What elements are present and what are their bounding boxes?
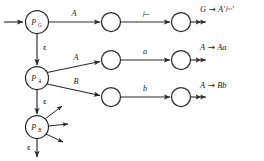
rule-bottom-rhs: Bb <box>217 81 226 90</box>
state-sub-pa: A <box>37 78 42 84</box>
state-transition-diagram: S1 --|- --> S2 ==> rule ===== --> P_A ==… <box>0 0 264 161</box>
rule-bottom-arrow: → <box>208 80 215 90</box>
rule-middle-arrow: → <box>208 42 215 52</box>
production-rule-middle: A→Aa <box>199 42 226 52</box>
edge-label-s5-to-s6: b <box>143 84 147 93</box>
state-node-s1[interactable] <box>102 13 121 32</box>
edge-label-pa-to-pb: ε <box>43 98 47 106</box>
rule-middle-lhs: A <box>199 43 206 52</box>
state-label-pb: P <box>30 123 36 132</box>
state-node-s4[interactable] <box>172 51 191 70</box>
edge-label-pb-exit: ε <box>27 144 31 152</box>
production-rule-top: G→A′⊢′ <box>200 4 234 14</box>
edge-pb-fan-middle <box>49 124 69 126</box>
rule-top-arrow: → <box>209 4 216 14</box>
edge-label-pg-to-s1: A <box>70 9 77 18</box>
rule-bottom-lhs: A <box>199 81 206 90</box>
edge-label-pa-to-s3: A <box>72 53 79 62</box>
state-node-s2[interactable] <box>172 13 191 32</box>
rule-top-lhs: G <box>200 5 206 14</box>
production-rule-bottom: A→Bb <box>199 80 226 90</box>
edge-pa-to-s3 <box>47 62 100 73</box>
state-label-pg: P <box>30 18 36 27</box>
state-label-pa: P <box>30 74 36 83</box>
state-node-s5[interactable] <box>102 88 121 107</box>
state-sub-pg: G <box>38 22 42 28</box>
state-node-s3[interactable] <box>102 51 121 70</box>
state-node-s6[interactable] <box>172 88 191 107</box>
rule-middle-rhs: Aa <box>216 43 226 52</box>
edge-pb-fan-down <box>46 134 63 142</box>
edge-label-s1-to-s2: ⊢ <box>142 10 150 19</box>
edge-label-s3-to-s4: a <box>143 47 147 56</box>
edge-label-pg-to-pa: ε <box>43 44 47 52</box>
edge-pb-fan-up <box>45 106 62 119</box>
diagram-canvas: S1 --|- --> S2 ==> rule ===== --> P_A ==… <box>0 0 264 161</box>
edge-label-pa-to-s5: B <box>73 77 78 86</box>
rule-top-rhs: A′⊢′ <box>217 5 234 14</box>
